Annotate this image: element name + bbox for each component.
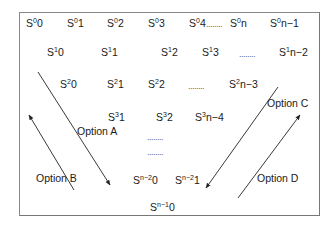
option-a-arrow (38, 72, 110, 185)
option-d-arrow (238, 115, 300, 198)
option-b-arrow (29, 115, 74, 190)
arrows-layer (0, 0, 335, 228)
option-c-arrow (206, 87, 278, 188)
